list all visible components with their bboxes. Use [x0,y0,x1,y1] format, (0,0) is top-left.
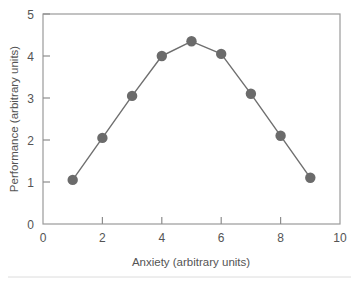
x-tick-label-8: 8 [277,231,284,245]
data-point-3 [127,91,137,101]
x-tick-label-0: 0 [40,231,47,245]
x-tick-labels: 0246810 [40,231,347,245]
y-tick-label-3: 3 [27,92,34,106]
data-point-5 [186,36,196,46]
data-series-line [73,41,311,180]
y-axis-ticks [43,14,50,182]
data-point-2 [97,133,107,143]
y-axis-title: Performance (arbitrary units) [8,46,20,193]
y-tick-label-2: 2 [27,134,34,148]
y-tick-label-1: 1 [27,176,34,190]
data-series-markers [68,36,316,185]
x-tick-label-10: 10 [333,231,347,245]
data-point-4 [157,51,167,61]
x-tick-label-6: 6 [218,231,225,245]
x-axis-title: Anxiety (arbitrary units) [132,256,250,268]
y-tick-label-0: 0 [27,218,34,232]
x-tick-label-4: 4 [158,231,165,245]
x-axis-ticks [102,217,280,224]
data-point-9 [305,173,315,183]
performance-anxiety-line-chart: 012345 0246810 Anxiety (arbitrary units)… [0,0,359,282]
y-tick-labels: 012345 [27,8,34,232]
data-point-6 [216,49,226,59]
y-tick-label-4: 4 [27,50,34,64]
y-tick-label-5: 5 [27,8,34,22]
data-point-8 [275,131,285,141]
chart-figure: 012345 0246810 Anxiety (arbitrary units)… [0,0,359,282]
data-point-1 [68,175,78,185]
data-point-7 [246,89,256,99]
x-tick-label-2: 2 [99,231,106,245]
